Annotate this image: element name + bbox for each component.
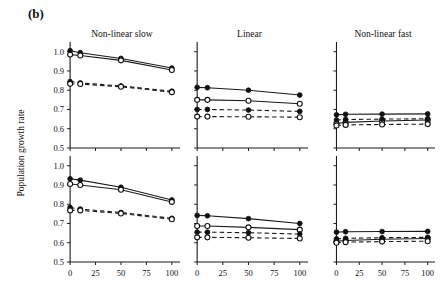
subplot-r1-c2: 0255075100 [333, 156, 435, 278]
data-point-marker [118, 84, 123, 89]
data-point-marker [334, 112, 339, 117]
x-tick-label: 0 [334, 268, 338, 278]
data-point-marker [246, 235, 251, 240]
x-tick-label: 25 [219, 268, 228, 278]
data-point-marker [68, 182, 73, 187]
data-point-marker [195, 107, 200, 112]
data-point-marker [246, 88, 251, 93]
data-point-marker [425, 122, 430, 127]
subplot-title: Non-linear fast [354, 29, 412, 39]
data-point-marker [343, 240, 348, 245]
data-point-marker [78, 53, 83, 58]
y-tick-label: 0.8 [53, 199, 64, 209]
plot-area: 0.50.60.70.80.91.0Non-linear slowLinearN… [0, 0, 444, 298]
data-point-marker [297, 236, 302, 241]
data-point-marker [380, 239, 385, 244]
data-point-marker [68, 81, 73, 86]
data-point-marker [195, 223, 200, 228]
x-tick-label: 100 [165, 268, 178, 278]
data-point-marker [425, 112, 430, 117]
data-point-marker [334, 230, 339, 235]
data-point-marker [297, 221, 302, 226]
x-tick-label: 50 [378, 268, 387, 278]
data-point-marker [425, 116, 430, 121]
subplot-r0-c0: 0.50.60.70.80.91.0Non-linear slow [53, 29, 180, 153]
data-point-marker [68, 52, 73, 57]
data-point-marker [78, 182, 83, 187]
data-point-marker [68, 208, 73, 213]
data-point-marker [118, 211, 123, 216]
data-point-marker [169, 90, 174, 95]
data-point-marker [246, 216, 251, 221]
data-point-marker [205, 235, 210, 240]
data-point-marker [246, 108, 251, 113]
data-point-marker [246, 225, 251, 230]
data-point-marker [343, 112, 348, 117]
data-point-marker [195, 230, 200, 235]
data-point-marker [195, 213, 200, 218]
x-tick-label: 75 [142, 268, 151, 278]
data-point-marker [205, 97, 210, 102]
subplot-r0-c1: Linear [194, 29, 308, 151]
y-tick-label: 0.6 [53, 238, 64, 248]
data-point-marker [425, 239, 430, 244]
subplot-title: Linear [237, 29, 263, 39]
data-point-marker [297, 101, 302, 106]
subplot-title: Non-linear slow [91, 29, 153, 39]
data-point-marker [205, 107, 210, 112]
y-tick-label: 0.7 [53, 104, 64, 114]
data-point-marker [343, 122, 348, 127]
data-point-marker [169, 199, 174, 204]
data-point-marker [380, 122, 385, 127]
y-tick-label: 1.0 [53, 47, 64, 57]
x-tick-label: 50 [244, 268, 253, 278]
subplot-r1-c0: 0.50.60.70.80.91.00255075100 [53, 156, 180, 278]
data-point-marker [380, 112, 385, 117]
data-point-marker [78, 82, 83, 87]
data-point-marker [205, 114, 210, 119]
data-point-marker [334, 240, 339, 245]
x-tick-label: 0 [195, 268, 199, 278]
y-tick-label: 0.7 [53, 218, 64, 228]
data-point-marker [195, 85, 200, 90]
y-axis-label: Population growth rate [16, 73, 26, 233]
data-point-marker [380, 229, 385, 234]
subplot-r0-c2: Non-linear fast [333, 29, 435, 151]
y-tick-label: 0.9 [53, 180, 64, 190]
x-tick-label: 75 [270, 268, 279, 278]
y-tick-label: 0.8 [53, 85, 64, 95]
data-point-marker [195, 97, 200, 102]
data-point-marker [78, 208, 83, 213]
data-point-marker [425, 229, 430, 234]
data-point-marker [297, 93, 302, 98]
data-point-marker [169, 217, 174, 222]
x-tick-label: 50 [117, 268, 126, 278]
y-tick-label: 1.0 [53, 161, 64, 171]
data-point-marker [334, 118, 339, 123]
data-point-marker [78, 178, 83, 183]
x-tick-label: 100 [421, 268, 434, 278]
x-tick-label: 25 [91, 268, 100, 278]
y-tick-label: 0.6 [53, 124, 64, 134]
figure-panel-letter: (b) [28, 6, 44, 22]
data-point-marker [169, 68, 174, 73]
data-point-marker [195, 235, 200, 240]
figure-container: (b) Population growth rate 0.50.60.70.80… [0, 0, 444, 298]
data-point-marker [343, 229, 348, 234]
y-tick-label: 0.5 [53, 257, 64, 267]
data-point-marker [118, 187, 123, 192]
x-tick-label: 100 [293, 268, 306, 278]
data-point-marker [297, 109, 302, 114]
x-tick-label: 0 [68, 268, 72, 278]
data-point-marker [246, 230, 251, 235]
x-tick-label: 75 [401, 268, 410, 278]
data-point-marker [343, 117, 348, 122]
data-point-marker [205, 213, 210, 218]
data-point-marker [246, 114, 251, 119]
data-point-marker [118, 58, 123, 63]
data-point-marker [205, 223, 210, 228]
data-point-marker [68, 176, 73, 181]
y-tick-label: 0.9 [53, 66, 64, 76]
y-tick-label: 0.5 [53, 143, 64, 153]
data-point-marker [297, 115, 302, 120]
